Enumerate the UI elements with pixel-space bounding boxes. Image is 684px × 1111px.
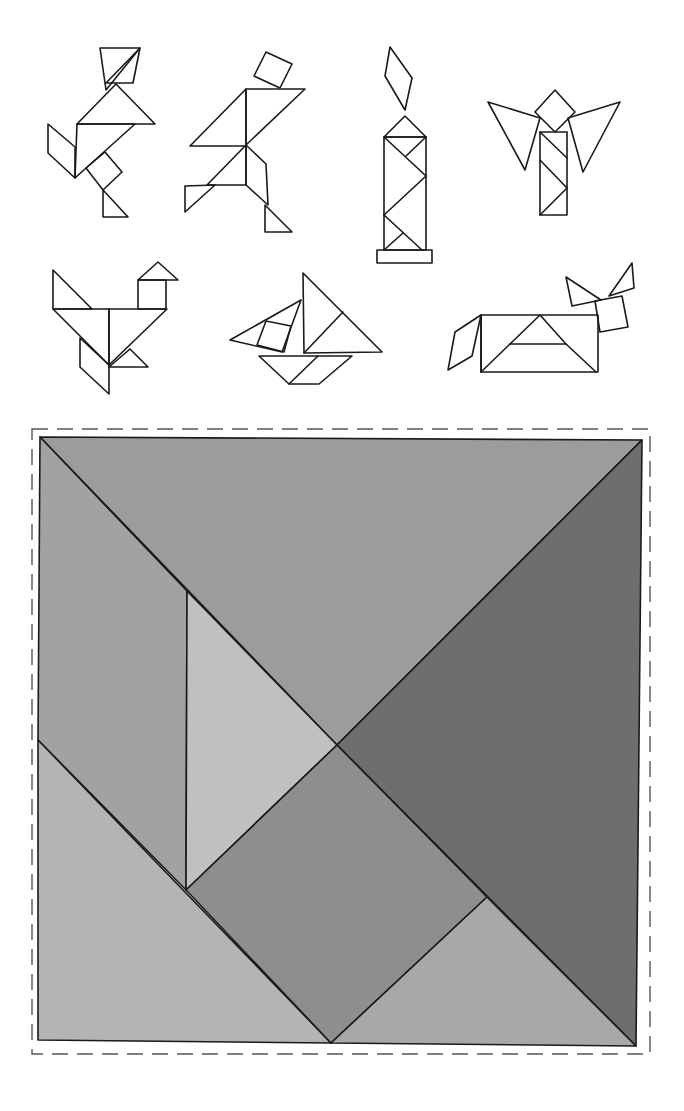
tangram-puzzle-square: [0, 0, 684, 1111]
